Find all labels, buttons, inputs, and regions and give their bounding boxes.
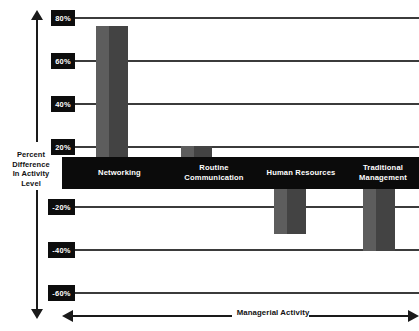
gridline-neg60: [62, 292, 419, 294]
category-label-text-line-2: Management: [359, 173, 407, 183]
bar-segment-dark: [376, 189, 395, 251]
x-axis: Managerial Activity: [62, 305, 419, 327]
y-tick-label-neg60: -60%: [48, 285, 75, 301]
category-label-text: Human Resources: [267, 168, 336, 178]
bar-traditional-management: [363, 189, 395, 251]
bar-segment-light: [181, 146, 194, 157]
arrow-shaft: [36, 190, 38, 310]
x-axis-left-shaft: [72, 315, 232, 317]
x-axis-right-shaft: [309, 315, 409, 317]
bar-segment-light: [274, 189, 287, 234]
bar-segment-dark: [287, 189, 306, 234]
bar-segment-light: [96, 26, 109, 157]
category-label-text: Networking: [98, 168, 141, 178]
y-tick-label-neg20: -20%: [48, 199, 75, 215]
y-axis-title-line-3: In Activity: [0, 169, 62, 179]
chart-figure: Percent Difference In Activity Level: [0, 0, 419, 331]
x-axis-right-arrow-icon: [408, 310, 419, 322]
category-label-text-line-2: Communication: [184, 173, 243, 183]
y-axis-title: Percent Difference In Activity Level: [0, 150, 62, 188]
y-tick-label-40: 40%: [51, 96, 75, 112]
plot-area: Networking Routine Communication Human R…: [62, 0, 419, 300]
category-label-text-line-1: Routine: [199, 163, 228, 173]
arrow-head-down: [31, 309, 43, 319]
y-axis-title-line-4: Level: [0, 179, 62, 189]
y-axis-down-arrow-icon: [30, 190, 44, 320]
y-tick-label-60: 60%: [51, 53, 75, 69]
gridline-80: [62, 17, 419, 19]
bar-segment-light: [363, 189, 376, 251]
category-label-text-line-1: Traditional: [363, 163, 403, 173]
category-label-networking: Networking: [72, 157, 167, 189]
y-tick-label-neg40: -40%: [48, 242, 75, 258]
y-axis-title-line-2: Difference: [0, 160, 62, 170]
bar-networking: [96, 26, 128, 157]
category-label-traditional-management: Traditional Management: [347, 157, 419, 189]
y-axis-up-arrow-icon: [30, 10, 44, 142]
bar-segment-dark: [194, 146, 212, 157]
category-band: Networking Routine Communication Human R…: [62, 157, 419, 189]
x-axis-title: Managerial Activity: [227, 308, 319, 317]
y-tick-label-20: 20%: [51, 139, 75, 155]
bar-human-resources: [274, 189, 306, 234]
bar-routine-communication: [181, 146, 212, 157]
bar-segment-dark: [109, 26, 128, 157]
y-tick-label-80: 80%: [51, 10, 75, 26]
category-label-human-resources: Human Resources: [246, 157, 356, 189]
arrow-shaft: [36, 19, 38, 142]
